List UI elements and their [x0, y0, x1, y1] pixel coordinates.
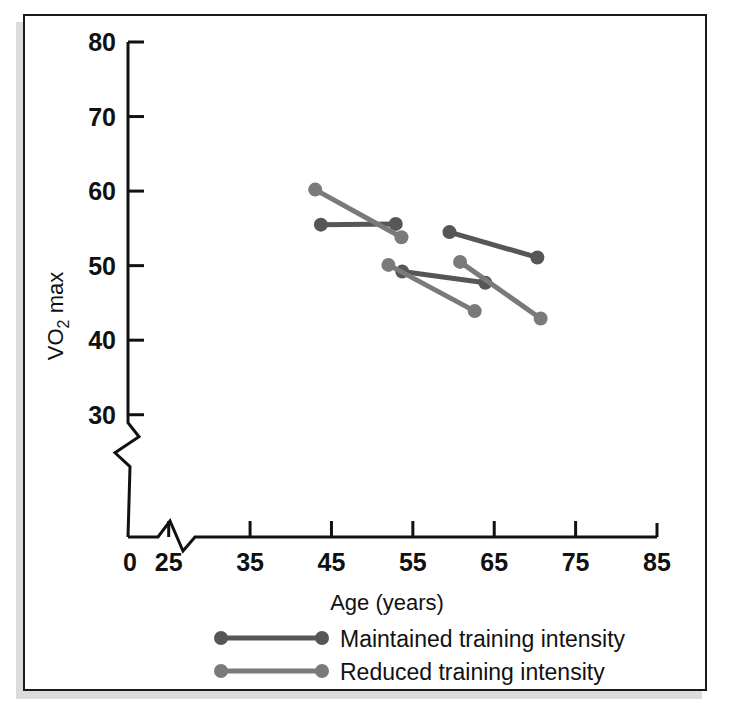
data-point-marker	[308, 183, 322, 197]
y-tick-label: 30	[88, 401, 116, 429]
x-tick-label: 45	[318, 548, 346, 576]
data-point-marker	[442, 225, 456, 239]
data-point-marker	[314, 218, 328, 232]
series-1	[314, 217, 544, 290]
data-point-marker	[394, 230, 408, 244]
svg-text:VO2 max: VO2 max	[43, 272, 72, 360]
y-axis-title-pre: VO	[43, 328, 68, 360]
y-axis-title-subscript: 2	[55, 319, 72, 328]
x-axis-tick-labels: 25354555657585	[155, 548, 671, 576]
y-tick-label: 40	[88, 326, 116, 354]
legend-label: Maintained training intensity	[340, 626, 626, 652]
legend-swatch-marker	[315, 664, 329, 678]
chart-legend: Maintained training intensityReduced tra…	[214, 626, 626, 685]
legend-swatch-marker	[214, 631, 228, 645]
figure-root: 304050607080 25354555657585 0 VO2 max Ag…	[0, 0, 732, 727]
legend-swatch-marker	[214, 664, 228, 678]
series-2	[308, 183, 547, 326]
x-tick-label: 25	[155, 548, 183, 576]
data-point-marker	[530, 250, 544, 264]
y-tick-label: 60	[88, 177, 116, 205]
legend-label: Reduced training intensity	[340, 659, 605, 685]
y-axis-ticks	[128, 42, 144, 415]
x-tick-label: 55	[399, 548, 427, 576]
y-axis-title: VO2 max	[43, 272, 72, 360]
y-tick-label: 50	[88, 252, 116, 280]
vo2max-age-chart: 304050607080 25354555657585 0 VO2 max Ag…	[25, 16, 705, 689]
data-series-layer	[308, 183, 547, 326]
data-point-marker	[381, 258, 395, 272]
figure-frame: 304050607080 25354555657585 0 VO2 max Ag…	[23, 14, 707, 691]
x-axis-origin-label: 0	[123, 548, 137, 576]
legend-item[interactable]: Reduced training intensity	[214, 659, 605, 685]
y-tick-label: 70	[88, 103, 116, 131]
y-axis-tick-labels: 304050607080	[88, 28, 116, 429]
x-axis-title: Age (years)	[330, 590, 444, 615]
legend-swatch-marker	[315, 631, 329, 645]
x-axis-line	[128, 521, 657, 551]
x-tick-label: 75	[562, 548, 590, 576]
y-tick-label: 80	[88, 28, 116, 56]
data-point-marker	[453, 255, 467, 269]
data-segment	[388, 265, 474, 311]
x-tick-label: 85	[643, 548, 671, 576]
x-axis-ticks	[169, 521, 657, 537]
x-tick-label: 65	[480, 548, 508, 576]
data-segment	[321, 224, 396, 225]
data-point-marker	[534, 312, 548, 326]
x-tick-label: 35	[236, 548, 264, 576]
y-axis-title-post: max	[43, 272, 68, 320]
data-segment	[449, 232, 537, 257]
data-point-marker	[468, 304, 482, 318]
legend-item[interactable]: Maintained training intensity	[214, 626, 626, 652]
data-segment	[315, 190, 401, 238]
